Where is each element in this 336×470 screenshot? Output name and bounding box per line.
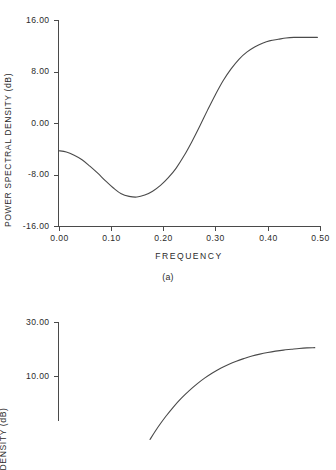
x-tick-label-a: 0.00 bbox=[50, 233, 68, 243]
y-tick-label-a: 8.00 bbox=[31, 66, 49, 76]
y-tick-label-a: 16.00 bbox=[26, 15, 50, 25]
y-tick-label-a: -8.00 bbox=[28, 169, 50, 179]
y-ticks-a: 16.008.000.00-8.00-16.00 bbox=[23, 15, 59, 231]
x-tick-label-a: 0.50 bbox=[311, 233, 329, 243]
y-tick-label-b: 30.00 bbox=[26, 317, 50, 327]
y-axis-title-b-wrap: DENSITY (dB) bbox=[0, 300, 16, 421]
y-axis-title-a-wrap: POWER SPECTRAL DENSITY (dB) bbox=[0, 0, 16, 300]
x-axis-title-a: FREQUENCY bbox=[155, 251, 222, 261]
x-tick-label-a: 0.40 bbox=[259, 233, 277, 243]
x-tick-label-a: 0.10 bbox=[102, 233, 120, 243]
chart-a-svg: 16.008.000.00-8.00-16.00 0.000.100.200.3… bbox=[0, 0, 336, 300]
panel-a-caption: (a) bbox=[0, 272, 336, 282]
y-tick-label-a: 0.00 bbox=[31, 118, 49, 128]
x-ticks-a: 0.000.100.200.300.400.50 bbox=[50, 226, 329, 243]
chart-panel-a: 16.008.000.00-8.00-16.00 0.000.100.200.3… bbox=[0, 0, 336, 300]
chart-b-svg: 30.0010.00 bbox=[0, 300, 336, 421]
data-curve-b bbox=[150, 348, 315, 440]
y-tick-label-a: -16.00 bbox=[23, 221, 50, 231]
y-axis-title-b: DENSITY (dB) bbox=[0, 408, 8, 470]
y-axis-title-a: POWER SPECTRAL DENSITY (dB) bbox=[3, 73, 13, 227]
y-tick-label-b: 10.00 bbox=[26, 371, 50, 381]
data-curve-a bbox=[59, 37, 318, 197]
chart-panel-b: 30.0010.00 DENSITY (dB) bbox=[0, 300, 336, 421]
x-tick-label-a: 0.20 bbox=[154, 233, 172, 243]
y-ticks-b: 30.0010.00 bbox=[26, 317, 59, 381]
x-tick-label-a: 0.30 bbox=[206, 233, 224, 243]
